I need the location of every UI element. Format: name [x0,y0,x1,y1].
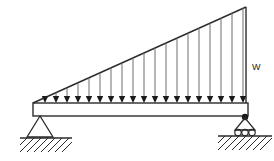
load-intensity-label: W [252,62,261,72]
load-arrow [64,88,70,103]
pin-support-triangle [27,116,53,137]
left-ground-hatching [13,138,76,152]
load-arrow [174,38,180,103]
load-arrow [229,13,235,103]
triangular-load-outline [33,7,246,103]
beam-body [33,103,248,116]
load-arrow [141,53,147,103]
roller-support [211,114,274,150]
pin-support [13,116,76,152]
load-arrow [119,63,125,103]
load-arrow [75,83,81,103]
beam [33,103,248,116]
load-arrow [185,33,191,103]
load-arrow [130,58,136,103]
load-arrow [152,48,158,103]
load-arrow [86,78,92,103]
beam-diagram: W [0,0,274,161]
load-arrow [240,8,246,103]
load-arrow [207,23,213,103]
load-arrow [218,18,224,103]
load-arrow [42,96,48,103]
load-hypotenuse-line [33,7,246,103]
load-arrow [97,73,103,103]
load-arrow [108,68,114,103]
load-arrow [163,43,169,103]
beam-diagram-canvas: W [0,0,274,161]
load-arrow-group [42,8,246,103]
load-arrow [196,28,202,103]
right-ground-hatching [211,136,274,150]
